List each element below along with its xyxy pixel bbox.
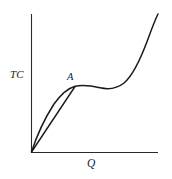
point-a-label: A: [67, 72, 73, 83]
origin-ray: [32, 87, 76, 153]
y-axis-label: TC: [10, 69, 24, 80]
x-axis-label: Q: [87, 158, 95, 170]
chart-canvas: [0, 0, 172, 179]
total-cost-curve: [32, 14, 159, 152]
total-cost-chart: TC Q A: [0, 0, 172, 179]
